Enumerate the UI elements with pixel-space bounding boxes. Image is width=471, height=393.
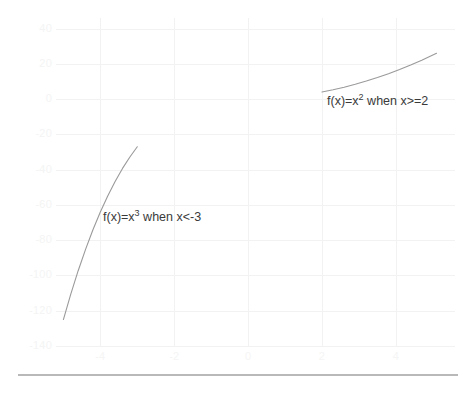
curve-series-0: [63, 147, 137, 320]
annotation-cubic-prefix: f(x)=x: [103, 210, 135, 224]
xtick-label-0: 0: [228, 350, 268, 362]
xtick-label--4: -4: [80, 350, 120, 362]
chart-screenshot: 40200-20-40-60-80-100-120-140 -4-2024 f(…: [0, 0, 471, 393]
annotation-quadratic-suffix: when x>=2: [364, 94, 429, 108]
xtick-label-2: 2: [302, 350, 342, 362]
xtick-label--2: -2: [154, 350, 194, 362]
curve-series-1: [322, 53, 437, 92]
ytick-label--40: -40: [12, 163, 52, 175]
annotation-cubic: f(x)=x3 when x<-3: [103, 211, 201, 224]
curve-series-group: [56, 18, 455, 346]
ytick-label-40: 40: [12, 22, 52, 34]
ytick-label--120: -120: [12, 304, 52, 316]
y-axis-tick-labels: 40200-20-40-60-80-100-120-140: [10, 18, 52, 346]
annotation-cubic-suffix: when x<-3: [140, 210, 202, 224]
ytick-label-0: 0: [12, 92, 52, 104]
gridline-y--140: [56, 346, 455, 347]
ytick-label--80: -80: [12, 233, 52, 245]
ytick-label--60: -60: [12, 198, 52, 210]
x-axis-tick-labels: -4-2024: [56, 350, 455, 366]
annotation-quadratic-prefix: f(x)=x: [327, 94, 359, 108]
xtick-label-4: 4: [376, 350, 416, 362]
plot-area: [56, 18, 455, 346]
annotation-quadratic: f(x)=x2 when x>=2: [327, 95, 428, 108]
ytick-label--140: -140: [12, 339, 52, 351]
bottom-divider-rule: [18, 374, 458, 376]
ytick-label--100: -100: [12, 268, 52, 280]
ytick-label--20: -20: [12, 127, 52, 139]
ytick-label-20: 20: [12, 57, 52, 69]
